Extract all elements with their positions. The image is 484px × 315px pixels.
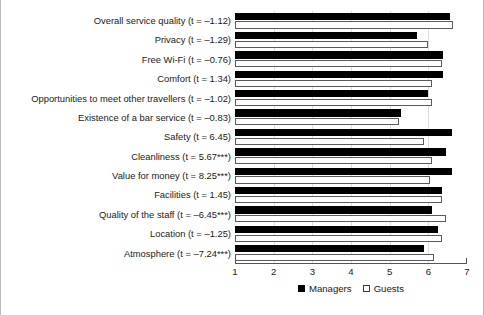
category-row: Quality of the staff (t = –6.45***) xyxy=(235,205,467,224)
bar-managers xyxy=(235,245,424,252)
legend-label: Managers xyxy=(309,283,352,294)
axis-end-tick xyxy=(466,258,467,264)
category-label: Opportunities to meet other travellers (… xyxy=(5,89,231,108)
axis-start-tick xyxy=(235,258,236,264)
x-tick-label: 2 xyxy=(262,266,286,278)
category-row: Free Wi-Fi (t = –0.76) xyxy=(235,50,467,69)
category-row: Opportunities to meet other travellers (… xyxy=(235,89,467,108)
bar-managers xyxy=(235,148,446,155)
category-row: Value for money (t = 8.25***) xyxy=(235,166,467,185)
category-row: Location (t = –1.25) xyxy=(235,224,467,243)
category-label: Overall service quality (t = –1.12) xyxy=(5,11,231,30)
category-row: Overall service quality (t = –1.12) xyxy=(235,11,467,30)
bar-guests xyxy=(235,80,432,87)
category-label: Quality of the staff (t = –6.45***) xyxy=(5,205,231,224)
bar-managers xyxy=(235,13,450,20)
bar-guests xyxy=(235,138,424,145)
x-tick-label: 1 xyxy=(223,266,247,278)
x-tick-label: 3 xyxy=(300,266,324,278)
category-label: Location (t = –1.25) xyxy=(5,224,231,243)
bar-managers xyxy=(235,168,452,175)
category-label: Atmosphere (t = –7.24***) xyxy=(5,244,231,263)
bar-managers xyxy=(235,129,452,136)
bar-guests xyxy=(235,60,442,67)
bar-managers xyxy=(235,32,417,39)
category-row: Safety (t = 6.45) xyxy=(235,127,467,146)
plot-area: Overall service quality (t = –1.12)Priva… xyxy=(235,11,467,263)
x-tick-label: 5 xyxy=(378,266,402,278)
bar-managers xyxy=(235,109,401,116)
bar-managers xyxy=(235,226,438,233)
category-row: Facilities (t = 1.45) xyxy=(235,185,467,204)
category-row: Comfort (t = 1.34) xyxy=(235,69,467,88)
x-axis-line xyxy=(235,263,467,264)
category-label: Free Wi-Fi (t = –0.76) xyxy=(5,50,231,69)
x-tick-label: 4 xyxy=(339,266,363,278)
category-label: Value for money (t = 8.25***) xyxy=(5,166,231,185)
bar-guests xyxy=(235,235,442,242)
legend-swatch-open-icon xyxy=(363,285,370,292)
bar-managers xyxy=(235,187,442,194)
x-tick-label: 7 xyxy=(455,266,479,278)
category-label: Existence of a bar service (t = –0.83) xyxy=(5,108,231,127)
bar-guests xyxy=(235,157,432,164)
bar-guests xyxy=(235,215,446,222)
legend-entry: Guests xyxy=(363,283,404,294)
chart-figure: Overall service quality (t = –1.12)Priva… xyxy=(0,0,484,315)
bar-guests xyxy=(235,254,434,261)
chart-legend: ManagersGuests xyxy=(235,283,467,294)
category-label: Facilities (t = 1.45) xyxy=(5,185,231,204)
category-label: Privacy (t = –1.29) xyxy=(5,30,231,49)
bar-managers xyxy=(235,51,443,58)
bar-guests xyxy=(235,118,399,125)
bar-managers xyxy=(235,71,443,78)
category-row: Privacy (t = –1.29) xyxy=(235,30,467,49)
bar-guests xyxy=(235,196,442,203)
category-row: Atmosphere (t = –7.24***) xyxy=(235,244,467,263)
legend-swatch-filled-icon xyxy=(298,285,305,292)
bar-managers xyxy=(235,90,428,97)
legend-label: Guests xyxy=(374,283,404,294)
bar-guests xyxy=(235,176,430,183)
category-row: Cleanliness (t = 5.67***) xyxy=(235,147,467,166)
category-label: Cleanliness (t = 5.67***) xyxy=(5,147,231,166)
bar-guests xyxy=(235,21,453,28)
x-tick-label: 6 xyxy=(416,266,440,278)
bar-guests xyxy=(235,99,432,106)
bar-rows: Overall service quality (t = –1.12)Priva… xyxy=(235,11,467,263)
legend-entry: Managers xyxy=(298,283,352,294)
category-row: Existence of a bar service (t = –0.83) xyxy=(235,108,467,127)
bar-managers xyxy=(235,206,432,213)
bar-guests xyxy=(235,41,428,48)
category-label: Comfort (t = 1.34) xyxy=(5,69,231,88)
category-label: Safety (t = 6.45) xyxy=(5,127,231,146)
